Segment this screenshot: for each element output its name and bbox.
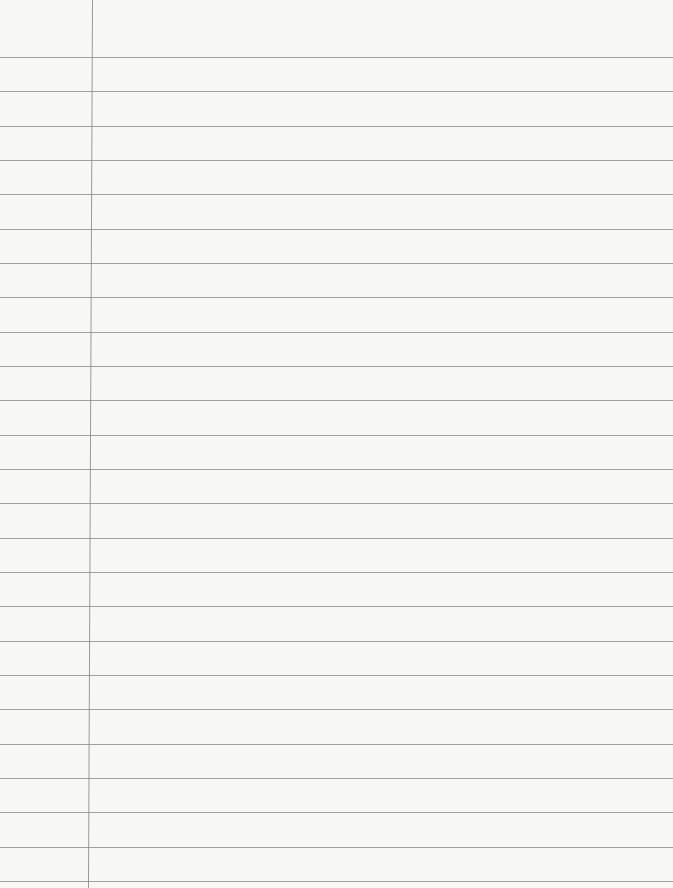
ruled-line [0, 812, 673, 813]
ruled-line [0, 91, 673, 92]
ruled-line [0, 641, 673, 642]
lined-paper [0, 0, 673, 888]
ruled-line [0, 572, 673, 573]
ruled-line [0, 778, 673, 779]
ruled-line [0, 297, 673, 298]
ruled-line [0, 400, 673, 401]
ruled-line [0, 160, 673, 161]
ruled-line [0, 538, 673, 539]
ruled-line [0, 881, 673, 882]
ruled-line [0, 847, 673, 848]
ruled-line [0, 57, 673, 58]
ruled-line [0, 606, 673, 607]
ruled-line [0, 469, 673, 470]
ruled-line [0, 744, 673, 745]
ruled-line [0, 503, 673, 504]
ruled-line [0, 263, 673, 264]
ruled-line [0, 709, 673, 710]
ruled-line [0, 194, 673, 195]
ruled-line [0, 126, 673, 127]
ruled-line [0, 675, 673, 676]
ruled-line [0, 229, 673, 230]
ruled-line [0, 435, 673, 436]
margin-line [88, 0, 93, 888]
ruled-line [0, 366, 673, 367]
ruled-line [0, 332, 673, 333]
